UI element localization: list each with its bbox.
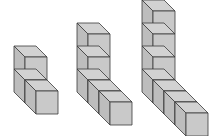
diagram-canvas <box>0 0 214 136</box>
cube-front-face <box>186 113 208 136</box>
figure-1 <box>14 46 58 114</box>
figure-2 <box>77 23 132 125</box>
cube <box>175 102 208 136</box>
cube <box>99 91 132 125</box>
figure-3 <box>142 0 208 136</box>
cube-front-face <box>110 102 132 125</box>
cube-sequence-diagram <box>0 0 214 136</box>
cube-front-face <box>36 91 58 114</box>
cube <box>25 80 58 114</box>
